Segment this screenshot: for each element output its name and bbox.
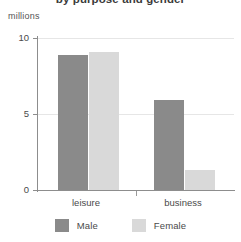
bar-chart: by purpose and gender millions 10 5 0 le… [0, 0, 241, 242]
legend-label-female: Female [154, 220, 186, 231]
x-axis-label-business: business [152, 197, 214, 208]
y-axis-label-0: 0 [3, 184, 29, 195]
chart-title: by purpose and gender [0, 0, 241, 5]
legend-item-male[interactable]: Male [55, 219, 98, 232]
x-axis-label-leisure: leisure [56, 197, 116, 208]
plot-area [38, 38, 234, 190]
bar-leisure-male [58, 55, 88, 190]
legend-label-male: Male [77, 220, 98, 231]
bar-business-female [185, 170, 215, 190]
chart-legend: Male Female [0, 219, 241, 232]
legend-item-female[interactable]: Female [132, 219, 186, 232]
x-axis-tick-divider [136, 191, 137, 196]
bars-layer [38, 38, 234, 190]
y-axis-tick-0 [33, 190, 38, 191]
y-axis-label-5: 5 [3, 108, 29, 119]
y-axis-label-10: 10 [3, 32, 29, 43]
bar-business-male [154, 100, 184, 190]
legend-swatch-male-icon [55, 219, 69, 232]
bar-leisure-female [89, 52, 119, 190]
y-axis-unit-label: millions [8, 11, 40, 21]
legend-swatch-female-icon [132, 219, 146, 232]
